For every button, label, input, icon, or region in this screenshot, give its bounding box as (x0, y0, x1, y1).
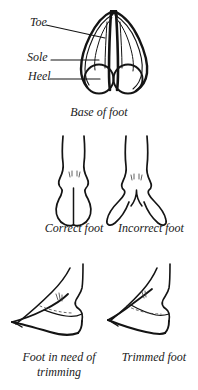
left-claw-medial-edge (109, 12, 111, 90)
trimmed-foot-heel-bulb (165, 321, 169, 333)
right-claw-medial-edge (116, 12, 118, 90)
untrimmed-foot-caption: Foot in need of trimming (4, 350, 114, 380)
heel-label: Heel (28, 70, 51, 84)
untrimmed-foot-sole-line (12, 322, 78, 335)
incorrect-foot-caption: Incorrect foot (104, 222, 198, 236)
untrimmed-foot-heel-bulb (78, 321, 82, 333)
correct-foot-right-outline (74, 136, 91, 226)
trimmed-foot-sole-line (108, 320, 165, 334)
incorrect-foot-dewclaw-left (131, 174, 134, 180)
left-claw-medial-inner (105, 22, 107, 68)
untrimmed-foot-rear-upper (75, 264, 83, 321)
incorrect-foot-right-outline (144, 136, 166, 225)
sole-label: Sole (27, 51, 48, 65)
incorrect-foot-dewclaw-right (139, 174, 142, 180)
trimmed-foot-coronet-dashes (127, 306, 161, 314)
foot-conformation-diagram (0, 130, 198, 230)
toe-label-text: Toe (30, 15, 47, 29)
trimmed-foot-front-edge (111, 268, 157, 320)
correct-foot-left-outline (56, 136, 73, 226)
base-of-foot-caption-text: Base of foot (70, 105, 127, 119)
untrimmed-foot-caption-line1: Foot in need of (4, 350, 114, 365)
toe-tip-junction (110, 10, 118, 18)
correct-foot-dewclaw-left (69, 171, 72, 177)
untrimmed-foot-wall-junction (44, 310, 82, 316)
heel-label-text: Heel (28, 69, 51, 83)
trimmed-foot-caption: Trimmed foot (112, 350, 196, 365)
right-claw-medial-inner (120, 22, 122, 68)
illustration-page: Toe Sole Heel Base of foot Correct foot … (0, 0, 198, 390)
incorrect-foot-left-outline (107, 136, 129, 225)
trimmed-foot-caption-text: Trimmed foot (112, 350, 196, 365)
untrimmed-foot-caption-line2: trimming (4, 365, 114, 380)
incorrect-foot-caption-text: Incorrect foot (118, 221, 184, 235)
correct-foot-caption-text: Correct foot (45, 221, 104, 235)
base-of-foot-caption: Base of foot (0, 106, 198, 120)
toe-label: Toe (30, 16, 47, 30)
trimmed-foot-rear-upper (162, 264, 170, 321)
sole-label-text: Sole (27, 50, 48, 64)
incorrect-foot-cleft (131, 190, 142, 206)
correct-foot-dewclaw-right (77, 171, 80, 177)
trimming-comparison-diagram (0, 258, 198, 350)
